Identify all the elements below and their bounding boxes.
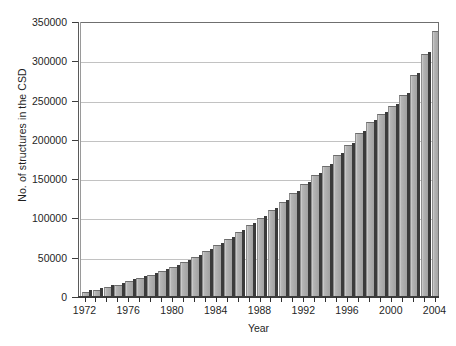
y-tick-label: 250000 <box>32 95 67 107</box>
bar <box>311 175 319 296</box>
x-tick-mark <box>314 297 315 302</box>
y-tick-label: 200000 <box>32 134 67 146</box>
x-tick-label: 1980 <box>160 304 183 316</box>
y-tick-label: 150000 <box>32 173 67 185</box>
bar <box>421 54 429 296</box>
x-tick-mark <box>281 297 282 302</box>
x-tick-mark <box>95 297 96 302</box>
x-tick-mark <box>216 297 217 302</box>
x-tick-mark <box>128 297 129 302</box>
x-tick-label: 2004 <box>423 304 446 316</box>
bar <box>279 202 287 296</box>
x-tick-mark <box>117 297 118 302</box>
x-tick-label: 2000 <box>379 304 402 316</box>
x-tick-mark <box>292 297 293 302</box>
x-tick-label: 1976 <box>117 304 140 316</box>
x-tick-mark <box>150 297 151 302</box>
x-axis-title: Year <box>78 322 439 334</box>
x-tick-mark <box>391 297 392 302</box>
bar <box>125 281 133 296</box>
bar <box>180 262 188 296</box>
y-tick-label: 0 <box>61 291 67 303</box>
x-tick-mark <box>172 297 173 302</box>
x-tick-mark <box>347 297 348 302</box>
y-axis-ticks: 0500001000001500002000002500003000003500… <box>0 0 78 346</box>
bar <box>114 285 122 296</box>
x-tick-mark <box>205 297 206 302</box>
bar <box>300 184 308 296</box>
x-tick-mark <box>369 297 370 302</box>
y-tick-label: 50000 <box>38 252 67 264</box>
bar <box>257 218 265 296</box>
x-tick-mark <box>139 297 140 302</box>
x-tick-mark <box>183 297 184 302</box>
csd-growth-bar-chart: No. of structures in the CSD 05000010000… <box>0 0 456 346</box>
y-tick-label: 350000 <box>32 16 67 28</box>
x-tick-mark <box>303 297 304 302</box>
x-tick-mark <box>402 297 403 302</box>
bar <box>246 225 254 296</box>
bar <box>377 114 385 296</box>
bar <box>169 267 177 296</box>
x-tick-mark <box>161 297 162 302</box>
bar <box>410 75 418 296</box>
x-tick-label: 1996 <box>335 304 358 316</box>
y-axis-spine <box>78 22 81 298</box>
x-tick-label: 1992 <box>292 304 315 316</box>
x-tick-mark <box>249 297 250 302</box>
bar <box>344 145 352 296</box>
x-tick-mark <box>227 297 228 302</box>
x-tick-mark <box>413 297 414 302</box>
y-tick-label: 100000 <box>32 212 67 224</box>
bar <box>399 95 407 296</box>
x-tick-mark <box>435 297 436 302</box>
bar <box>432 31 439 296</box>
x-tick-mark <box>238 297 239 302</box>
bar <box>388 106 396 296</box>
x-tick-mark <box>260 297 261 302</box>
bar <box>147 275 155 296</box>
bar <box>235 232 243 296</box>
x-tick-mark <box>336 297 337 302</box>
x-tick-label: 1972 <box>73 304 96 316</box>
x-tick-label: 1984 <box>204 304 227 316</box>
bar <box>224 239 232 296</box>
x-tick-label: 1988 <box>248 304 271 316</box>
x-tick-mark <box>194 297 195 302</box>
bar <box>104 287 112 296</box>
bar <box>289 193 297 296</box>
x-axis-spine <box>78 296 439 298</box>
bar <box>355 133 363 296</box>
bar <box>268 210 276 296</box>
x-tick-mark <box>424 297 425 302</box>
bar <box>158 271 166 296</box>
bar <box>136 278 144 296</box>
plot-area <box>78 22 439 297</box>
x-tick-mark <box>380 297 381 302</box>
x-tick-mark <box>358 297 359 302</box>
bar <box>322 166 330 296</box>
bar <box>202 251 210 296</box>
bar <box>213 245 221 296</box>
x-tick-mark <box>85 297 86 302</box>
bar <box>333 155 341 296</box>
bar <box>366 122 374 296</box>
bar-series <box>79 23 438 296</box>
x-tick-mark <box>325 297 326 302</box>
x-tick-mark <box>270 297 271 302</box>
x-tick-mark <box>106 297 107 302</box>
bar <box>191 257 199 296</box>
y-tick-label: 300000 <box>32 55 67 67</box>
